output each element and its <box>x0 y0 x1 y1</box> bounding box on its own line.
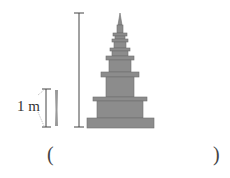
pagoda-tower <box>87 13 154 128</box>
reference-label: 1 m <box>17 98 40 115</box>
person-silhouette <box>55 90 58 126</box>
answer-close-paren: ) <box>213 143 220 166</box>
tower-height-bracket <box>74 13 84 127</box>
answer-field[interactable] <box>60 146 210 166</box>
answer-open-paren: ( <box>47 143 54 166</box>
